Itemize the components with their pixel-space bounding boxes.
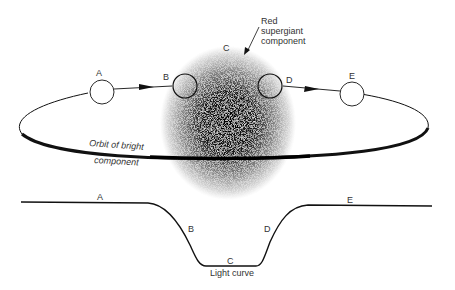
orbit-label-line1: Orbit of bright: [89, 138, 145, 152]
light-curve-label: Light curve: [210, 268, 254, 278]
supergiant-label-line2: supergiant: [261, 26, 304, 36]
supergiant-label-line3: component: [261, 36, 306, 46]
red-supergiant-star: [160, 46, 296, 200]
eclipsing-binary-diagram: A B C D E Red supergiant component Orbit…: [0, 0, 455, 290]
curve-label-e: E: [347, 195, 353, 205]
curve-label-b: B: [188, 224, 194, 234]
supergiant-pointer-line: [247, 27, 259, 52]
direction-arrow-icon: [304, 86, 319, 92]
curve-label-d: D: [264, 224, 271, 234]
curve-label-a: A: [97, 192, 103, 202]
position-label-c: C: [223, 43, 230, 53]
supergiant-label-line1: Red: [261, 16, 278, 26]
curve-label-c: C: [227, 256, 234, 266]
position-label-e: E: [349, 71, 355, 81]
position-label-d: D: [286, 75, 293, 85]
position-label-a: A: [96, 68, 102, 78]
bright-component-a: [90, 80, 114, 104]
bright-component-e: [340, 82, 364, 106]
direction-arrow-icon: [139, 84, 154, 90]
orbit-label-line2: component: [94, 155, 139, 167]
position-label-b: B: [163, 72, 169, 82]
